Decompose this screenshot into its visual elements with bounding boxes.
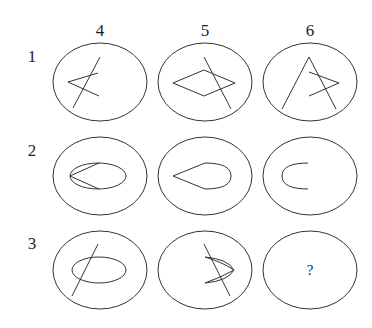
slanted-line [72,244,98,296]
cell-1-4 [53,43,147,121]
row-label-2: 2 [28,141,37,160]
teardrop-shape [173,163,231,189]
column-label-4: 4 [96,21,105,40]
figure-matrix-puzzle: 4 5 6 1 2 3 [0,0,372,328]
cell-oval [158,43,252,121]
cell-1-5 [158,43,252,121]
slanted-line [204,57,231,109]
cell-oval [158,231,252,309]
curved-right-chevron [205,257,234,283]
diamond [173,70,235,96]
curved-right-chevron-inner [205,257,234,283]
lambda-shape [282,57,336,109]
inner-ellipse [70,163,126,189]
cell-oval [53,137,147,215]
cell-2-6 [263,137,357,215]
slanted-line [204,244,230,296]
cell-3-5 [158,231,252,309]
c-arc [282,163,308,189]
row-label-3: 3 [28,234,37,253]
column-label-6: 6 [306,21,315,40]
right-chevron [309,72,339,96]
cell-3-6: ? [263,231,357,309]
cell-oval [263,43,357,121]
cell-3-4 [53,231,147,309]
left-chevron [68,73,99,96]
cell-2-5 [158,137,252,215]
cell-1-6 [263,43,357,121]
left-chevron [70,163,99,189]
cell-oval [263,137,357,215]
column-label-5: 5 [201,21,210,40]
slanted-line [73,57,100,108]
row-label-1: 1 [28,47,37,66]
cell-2-4 [53,137,147,215]
missing-answer-mark: ? [307,262,314,278]
cell-oval [53,231,147,309]
